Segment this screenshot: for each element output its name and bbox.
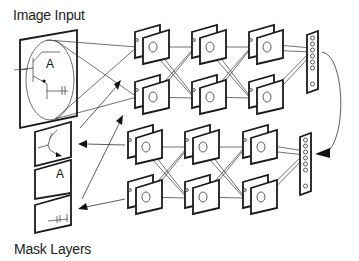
mask-glyph-a: A	[56, 167, 64, 181]
mask-frame-2: A	[35, 160, 71, 199]
top-network	[135, 25, 318, 114]
mask-arrows	[78, 80, 125, 210]
network-diagram: A A	[0, 0, 359, 261]
input-image-frame: A	[14, 30, 77, 128]
mask-frame-1	[35, 122, 71, 166]
bottom-network	[128, 125, 311, 214]
bottom-output-vector	[300, 133, 311, 195]
top-output-vector	[307, 31, 318, 93]
mask-frame-3	[35, 195, 71, 233]
input-glyph: A	[46, 57, 54, 71]
